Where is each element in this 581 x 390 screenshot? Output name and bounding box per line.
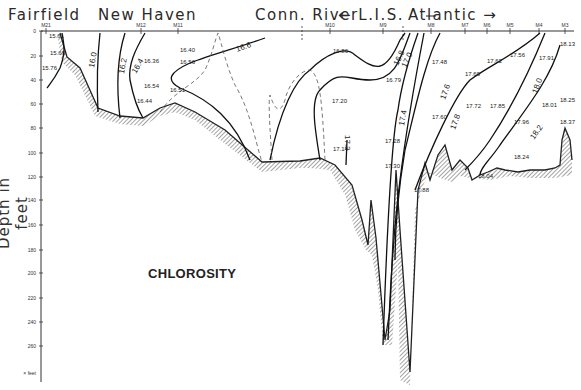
value-label: 16.44 [137,98,153,104]
value-label: 17.28 [385,138,401,144]
isoline-16-6 [171,38,265,160]
value-label: 16.56 [180,59,196,65]
station-m21: M21 [41,22,51,28]
y-tick-0: 0 [33,28,36,34]
isoline-16-2 [118,33,125,118]
station-m5: M5 [507,22,514,28]
value-label: 18.13 [560,41,576,47]
isoline-label: 16.2 [117,57,129,74]
value-label: 16.51 [170,87,186,93]
station-m9: M9 [380,22,387,28]
y-tick-60: 60 [30,101,36,107]
station-m10: M10 [325,22,335,28]
value-label: 15.76 [42,65,58,71]
value-label: 17.30 [385,163,401,169]
value-label: 17.96 [514,119,530,125]
station-m6: M6 [484,22,491,28]
value-label: 16.36 [144,58,160,64]
value-label: 17.20 [332,98,348,104]
value-label: 18.01 [542,102,558,108]
station-m8: M8 [428,22,435,28]
y-ticks: 0 20 40 60 80 100 120 140 160 180 200 22… [23,28,43,376]
value-label: 17.72 [466,103,482,109]
value-label: 17.56 [510,52,526,58]
y-tick-100: 100 [28,150,37,156]
station-m12: M12 [136,22,146,28]
value-label: 17.60 [432,114,448,120]
isoline-label: 17.8 [448,112,462,130]
isoline-18-0 [465,33,545,170]
value-label: 17.88 [414,187,430,193]
y-tick-20: 20 [30,53,36,59]
value-label: 17.62 [487,58,503,64]
y-tick-120: 120 [28,174,37,180]
value-label: 15.69 [50,50,66,56]
value-label: 16.40 [180,47,196,53]
value-label: 18.04 [478,173,494,179]
value-label: 18.25 [560,97,576,103]
y-tick-180: 180 [28,247,37,253]
chart-plot: 0 20 40 60 80 100 120 140 160 180 200 22… [0,0,581,390]
value-label: 15.61 [49,33,65,39]
isoline-label: 17.6 [438,82,452,100]
value-label: 16.86 [333,48,349,54]
isoline-16-0 [97,33,100,112]
isoline-label: 17.4 [397,109,409,126]
y-tick-200: 200 [28,270,37,276]
seabed-profile [58,33,572,385]
value-label: 17.69 [465,71,481,77]
y-tick-160: 160 [28,222,37,228]
y-tick-240: 240 [28,319,37,325]
value-label: 18.37 [560,119,576,125]
y-tick-220: 220 [28,295,37,301]
y-tick-80: 80 [30,125,36,131]
station-m3: M3 [562,22,569,28]
isoline-label: 16.6 [235,40,253,54]
value-label: 17.14 [333,146,349,152]
y-tick-feet: × feet [23,370,36,376]
station-m4: M4 [536,22,543,28]
y-tick-260: 260 [28,343,37,349]
y-tick-140: 140 [28,197,37,203]
y-tick-40: 40 [30,77,36,83]
value-label: 16.79 [386,77,402,83]
value-label: 17.85 [490,103,506,109]
station-m11: M11 [173,22,183,28]
isoline-label: 18.2 [528,123,545,141]
value-label: 16.54 [144,83,160,89]
value-label: 17.48 [432,59,448,65]
value-label: 17.91 [539,55,555,61]
isolines [47,33,560,345]
station-m7: M7 [462,22,469,28]
value-label: 18.24 [514,154,530,160]
